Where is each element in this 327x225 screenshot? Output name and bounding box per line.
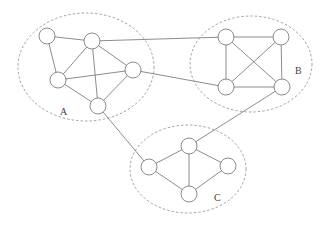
edge-a4-b3 xyxy=(133,70,226,87)
edge-a2-a5 xyxy=(92,41,98,106)
network-diagram: ABC xyxy=(0,0,327,225)
edge-a2-b1 xyxy=(92,37,226,41)
cluster-label-a: A xyxy=(60,106,68,117)
node-a2 xyxy=(84,33,100,49)
edge-b4-c2 xyxy=(189,87,282,146)
node-a5 xyxy=(90,98,106,114)
node-c3 xyxy=(220,158,236,174)
node-a4 xyxy=(125,62,141,78)
node-c1 xyxy=(141,159,157,175)
node-c4 xyxy=(181,186,197,202)
diagram-canvas: ABC xyxy=(0,0,327,225)
cluster-label-b: B xyxy=(295,65,302,76)
cluster-label-c: C xyxy=(214,192,221,203)
node-b4 xyxy=(274,79,290,95)
node-b2 xyxy=(273,29,289,45)
edges-layer xyxy=(47,36,282,194)
nodes-layer xyxy=(39,28,290,202)
node-b3 xyxy=(218,79,234,95)
edge-a5-c1 xyxy=(98,106,149,167)
node-c2 xyxy=(181,138,197,154)
node-a3 xyxy=(50,72,66,88)
node-b1 xyxy=(218,29,234,45)
node-a1 xyxy=(39,28,55,44)
